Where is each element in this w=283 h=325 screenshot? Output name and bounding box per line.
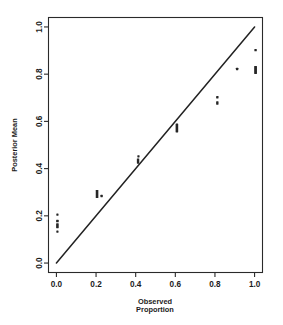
data-point — [100, 195, 102, 197]
x-tick-label: 0.6 — [170, 280, 182, 289]
y-tick-label: 0.0 — [35, 257, 44, 269]
data-point — [216, 96, 218, 98]
y-tick-label: 0.2 — [35, 210, 44, 222]
chart-figure: 0.00.20.40.60.81.0 0.00.20.40.60.81.0 Ob… — [0, 0, 283, 325]
data-point — [96, 190, 99, 198]
data-point — [176, 124, 179, 133]
x-tick-label: 0.4 — [130, 280, 142, 289]
data-point — [56, 220, 59, 223]
data-point — [254, 49, 256, 51]
y-tick-label: 0.6 — [35, 115, 44, 127]
x-tick-label: 0.8 — [209, 280, 221, 289]
x-tick-label: 0.0 — [51, 280, 63, 289]
data-point — [137, 158, 139, 163]
x-axis-title-line-2: Proportion — [136, 305, 174, 314]
x-tick-label: 1.0 — [249, 280, 261, 289]
y-tick-label: 0.4 — [35, 162, 44, 174]
data-point — [56, 231, 58, 233]
data-point — [254, 66, 257, 74]
y-tick-label: 0.8 — [35, 68, 44, 80]
data-point — [56, 223, 59, 228]
calibration-scatter-plot: 0.00.20.40.60.81.0 0.00.20.40.60.81.0 Ob… — [0, 0, 283, 325]
y-tick-label: 1.0 — [35, 21, 44, 33]
data-point — [137, 155, 139, 157]
data-point — [216, 101, 218, 104]
data-point — [56, 214, 58, 216]
y-axis-title: Posterior Mean — [10, 118, 19, 172]
x-tick-label: 0.2 — [90, 280, 102, 289]
data-point — [236, 68, 238, 70]
